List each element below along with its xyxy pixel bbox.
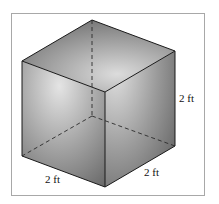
height-label: 2 ft: [179, 93, 194, 104]
width-right-label: 2 ft: [144, 167, 159, 178]
width-left-label: 2 ft: [45, 174, 60, 185]
